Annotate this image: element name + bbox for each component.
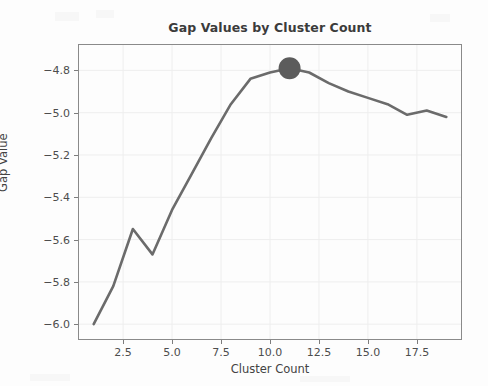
x-tickmark	[172, 340, 173, 344]
x-tick-label: 17.5	[397, 346, 437, 359]
x-tick-label: 7.5	[201, 346, 241, 359]
scan-artifact	[55, 12, 79, 21]
chart-title: Gap Values by Cluster Count	[78, 20, 462, 35]
x-tick-label: 2.5	[103, 346, 143, 359]
chart-figure: Gap Values by Cluster Count Gap Value Cl…	[0, 0, 488, 386]
y-tick-label: −5.0	[18, 106, 70, 119]
scan-artifact	[300, 376, 350, 382]
x-tickmark	[417, 340, 418, 344]
line-chart-svg	[79, 45, 461, 339]
y-axis-label: Gap Value	[0, 134, 10, 193]
y-tick-label: −4.8	[18, 64, 70, 77]
y-tick-label: −5.2	[18, 148, 70, 161]
x-tick-label: 10.0	[250, 346, 290, 359]
x-tick-label: 12.5	[299, 346, 339, 359]
plot-area	[78, 44, 462, 340]
scan-artifact	[96, 10, 114, 18]
optimal-cluster-marker	[279, 57, 301, 79]
x-tickmark	[368, 340, 369, 344]
x-tickmark	[270, 340, 271, 344]
x-tickmark	[123, 340, 124, 344]
vertical-gridlines	[123, 45, 417, 339]
y-tick-label: −5.8	[18, 275, 70, 288]
y-tick-label: −5.4	[18, 191, 70, 204]
y-tick-label: −6.0	[18, 318, 70, 331]
x-axis-label: Cluster Count	[78, 362, 462, 376]
y-tick-label: −5.6	[18, 233, 70, 246]
x-tickmark	[319, 340, 320, 344]
x-tick-label: 5.0	[152, 346, 192, 359]
scan-artifact	[30, 374, 70, 381]
x-tick-label: 15.0	[348, 346, 388, 359]
x-tickmark	[221, 340, 222, 344]
